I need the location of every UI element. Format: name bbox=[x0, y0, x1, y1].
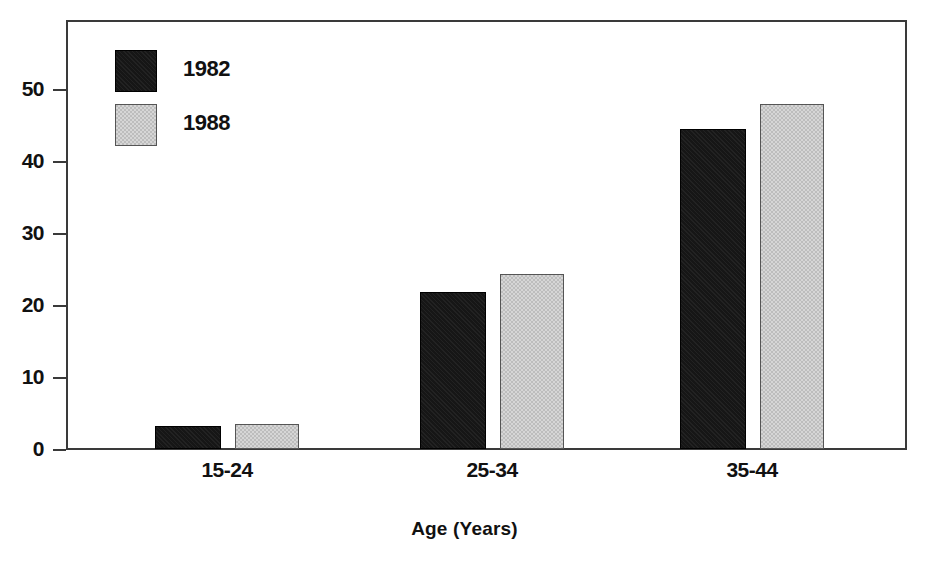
legend-label-1988: 1988 bbox=[183, 110, 230, 136]
legend-swatch-1982 bbox=[115, 50, 157, 92]
x-category-label-35-44: 35-44 bbox=[672, 458, 832, 482]
bar-1988-15-24 bbox=[235, 424, 299, 449]
bar-1988-35-44 bbox=[760, 104, 824, 449]
x-category-label-15-24: 15-24 bbox=[147, 458, 307, 482]
bar-1982-25-34 bbox=[420, 292, 486, 449]
x-axis-title: Age (Years) bbox=[0, 518, 929, 540]
bar-1982-15-24 bbox=[155, 426, 221, 449]
x-category-label-25-34: 25-34 bbox=[412, 458, 572, 482]
bar-chart-figure: 50 40 30 20 10 0 bbox=[0, 0, 929, 563]
bar-1982-35-44 bbox=[680, 129, 746, 449]
legend-swatch-1988 bbox=[115, 104, 157, 146]
bar-1988-25-34 bbox=[500, 274, 564, 449]
legend-label-1982: 1982 bbox=[183, 56, 230, 82]
